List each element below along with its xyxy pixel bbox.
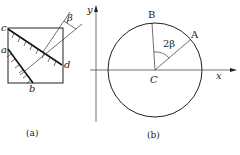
ray-1: [20, 24, 82, 75]
label-C: C: [150, 74, 158, 85]
figure-canvas: β c a d b (a) y x 2β B A C (b): [0, 0, 240, 155]
y-axis-arrow-icon: [94, 5, 98, 12]
ray-2: [43, 12, 70, 52]
label-2beta: 2β: [163, 38, 175, 49]
label-d: d: [64, 59, 70, 70]
angle-arc: [154, 52, 169, 58]
caption-a: (a): [26, 128, 38, 138]
label-b: b: [29, 83, 35, 94]
line-ab: [8, 49, 33, 83]
figure-a: β c a d b (a): [1, 12, 82, 138]
caption-b: (b): [147, 130, 160, 140]
label-c: c: [1, 22, 7, 33]
radius-cb: [152, 23, 155, 70]
label-a: a: [1, 44, 7, 55]
x-axis-arrow-icon: [230, 68, 237, 72]
label-y: y: [86, 4, 93, 15]
label-beta: β: [66, 12, 73, 23]
label-x: x: [216, 70, 222, 81]
label-B: B: [148, 9, 155, 20]
square-frame: [8, 28, 63, 83]
label-A: A: [190, 29, 199, 40]
figure-b: y x 2β B A C (b): [86, 4, 237, 140]
hatching-cd: [12, 33, 56, 66]
